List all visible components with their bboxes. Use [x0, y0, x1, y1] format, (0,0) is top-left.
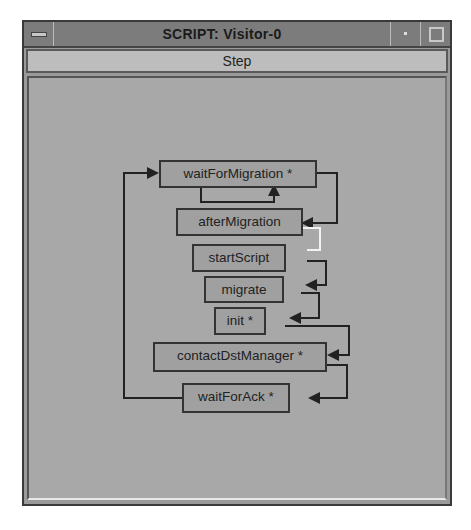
maximize-icon	[429, 27, 444, 42]
maximize-button[interactable]	[420, 22, 450, 46]
node-init[interactable]: init *	[214, 307, 266, 335]
node-waitForMigration[interactable]: waitForMigration *	[159, 160, 317, 188]
node-startScript[interactable]: startScript	[192, 244, 286, 272]
window-title: SCRIPT: Visitor-0	[54, 26, 390, 42]
title-bar[interactable]: SCRIPT: Visitor-0	[24, 22, 450, 48]
highlighted-edge	[303, 228, 320, 250]
node-waitForAck[interactable]: waitForAck *	[182, 383, 290, 413]
node-afterMigration[interactable]: afterMigration	[176, 208, 303, 236]
node-contactDstManager[interactable]: contactDstManager *	[153, 342, 327, 372]
script-window: SCRIPT: Visitor-0 Step	[22, 20, 452, 506]
window-menu-button[interactable]	[24, 22, 54, 46]
node-migrate[interactable]: migrate	[204, 276, 284, 303]
menu-bar-icon	[31, 32, 47, 37]
minimize-button[interactable]	[390, 22, 420, 46]
minimize-icon	[404, 32, 407, 35]
step-button[interactable]: Step	[26, 49, 448, 73]
script-graph-canvas: waitForMigration * afterMigration startS…	[27, 76, 447, 500]
